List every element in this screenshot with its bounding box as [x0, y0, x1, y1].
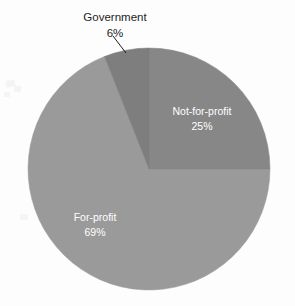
not-for-profit-slice-name: Not-for-profit	[173, 105, 232, 117]
government-slice-value: 6%	[107, 27, 124, 39]
not-for-profit-slice-value: 25%	[191, 120, 212, 132]
pie-chart-figure: Government 6% Not-for-profit 25% For-pro…	[0, 0, 295, 306]
government-slice-name: Government	[83, 11, 147, 23]
pie-chart: Government 6% Not-for-profit 25% For-pro…	[0, 0, 295, 306]
for-profit-slice-value: 69%	[84, 226, 105, 238]
for-profit-slice-name: For-profit	[74, 211, 117, 223]
